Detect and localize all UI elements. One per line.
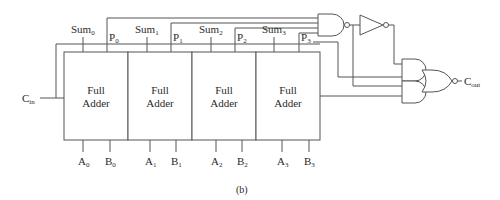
b0-label: B0 [105, 156, 116, 171]
p0-label: P0 [109, 32, 119, 47]
b1-label: B1 [171, 156, 182, 171]
inverter-out-wire [389, 25, 403, 64]
sum2-label: Sum2 [199, 24, 223, 39]
full-adder-0-label: FullAdder [64, 84, 128, 110]
full-adder-2-label: FullAdder [192, 84, 256, 110]
p3-label: P3 [301, 32, 311, 47]
p3-to-and-wire [313, 42, 402, 77]
nand-gate [318, 14, 344, 36]
nand-bubble [345, 23, 350, 28]
figure-caption: (b) [236, 184, 248, 195]
a0-label: A0 [78, 156, 89, 171]
full-adder-1-label: FullAdder [128, 84, 192, 110]
full-adder-3-label: FullAdder [256, 84, 320, 110]
sum3-label: Sum3 [262, 24, 286, 39]
a1-label: A1 [145, 156, 156, 171]
b3-label: B3 [304, 156, 315, 171]
carry-out-label: Cout [464, 76, 480, 91]
nor-bubble [453, 79, 458, 84]
nor-gate [422, 70, 452, 92]
inverter-bubble [384, 23, 389, 28]
b2-label: B2 [237, 156, 248, 171]
inverter-gate [360, 15, 383, 35]
sum0-label: Sum0 [71, 24, 95, 39]
a3-label: A3 [277, 156, 288, 171]
carry-in-label: Cin [22, 93, 35, 108]
p1-label: P1 [173, 32, 183, 47]
a2-label: A2 [211, 156, 222, 171]
sum1-label: Sum1 [135, 24, 159, 39]
p2-label: P2 [237, 32, 247, 47]
